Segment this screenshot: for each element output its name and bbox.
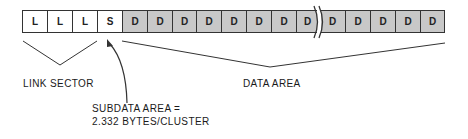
subdata-area-label: SUBDATA AREA = 2.332 BYTES/CLUSTER xyxy=(92,102,210,128)
data-area-label: DATA AREA xyxy=(243,78,301,89)
subdata-arrow-icon xyxy=(107,39,127,103)
data-cell: D xyxy=(320,10,346,33)
data-cell: D xyxy=(246,10,272,33)
subdata-label-line2: 2.332 BYTES/CLUSTER xyxy=(92,115,210,128)
data-cell: D xyxy=(345,10,371,33)
link-cell: L xyxy=(22,10,48,33)
data-cell: D xyxy=(122,10,148,33)
data-cell: D xyxy=(370,10,396,33)
data-cell: D xyxy=(147,10,173,33)
subdata-cell: S xyxy=(97,10,123,33)
data-cell: D xyxy=(271,10,297,33)
link-sector-label: LINK SECTOR xyxy=(23,78,94,89)
data-area-bracket xyxy=(122,41,445,67)
data-cell: D xyxy=(221,10,247,33)
data-cell: D xyxy=(172,10,197,33)
subdata-label-line1: SUBDATA AREA = xyxy=(92,102,210,115)
link-sector-bracket xyxy=(23,41,97,65)
link-cell: L xyxy=(47,10,73,33)
data-cell: D xyxy=(196,10,222,33)
data-cell: D xyxy=(395,10,421,33)
link-cell: L xyxy=(72,10,98,33)
data-cell: D xyxy=(296,10,318,33)
data-cell: D xyxy=(420,10,445,33)
